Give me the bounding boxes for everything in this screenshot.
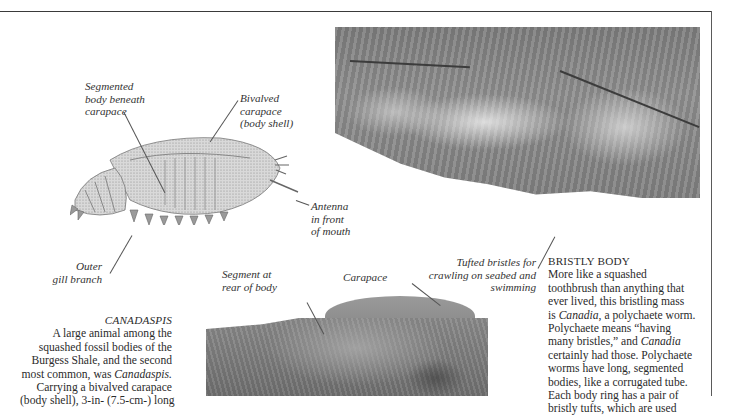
caption-line: many bristles,” and Canadia	[548, 335, 710, 348]
caption-line: A large animal among the	[20, 327, 172, 340]
canadaspis-illustration	[70, 130, 300, 225]
caption-line: certainly had those. Polychaete	[548, 349, 710, 362]
caption-line: bodies, like a corrugated tube.	[548, 376, 710, 389]
label-segment-rear: Segment at rear of body	[222, 268, 277, 293]
bristly-body-caption: BRISTLY BODY More like a squashed toothb…	[548, 255, 710, 416]
canadaspis-caption: CANADASPIS A large animal among the squa…	[20, 314, 172, 408]
caption-line: More like a squashed	[548, 268, 710, 281]
caption-line: (body shell), 3-in- (7.5-cm-) long	[20, 394, 172, 407]
canadia-fossil-photo	[335, 27, 700, 198]
bristly-body-heading: BRISTLY BODY	[548, 255, 710, 268]
top-rule	[0, 11, 712, 12]
caption-line: worms have long, segmented	[548, 362, 710, 375]
leader-outer-gill	[110, 235, 133, 274]
label-outer-gill: Outer gill branch	[50, 260, 102, 285]
label-carapace: Carapace	[343, 271, 387, 284]
label-segmented-body: Segmented body beneath carapace	[85, 80, 145, 118]
caption-line: ever lived, this bristling mass	[548, 295, 710, 308]
caption-line: Carrying a bivalved carapace	[20, 381, 172, 394]
caption-line: bristly tufts, which are used	[548, 402, 710, 415]
canadaspis-fossil-photo	[206, 318, 488, 396]
caption-line: Each body ring has a pair of	[548, 389, 710, 402]
caption-line: most common, was Canadaspis.	[20, 368, 172, 381]
caption-line: squashed fossil bodies of the	[20, 341, 172, 354]
canadaspis-heading: CANADASPIS	[20, 314, 172, 327]
caption-line: Burgess Shale, and the second	[20, 354, 172, 367]
label-antenna: Antenna in front of mouth	[311, 200, 350, 238]
label-bivalved-carapace: Bivalved carapace (body shell)	[240, 92, 293, 130]
right-rule	[711, 11, 712, 396]
label-tufted-bristles: Tufted bristles for crawling on seabed a…	[410, 256, 536, 294]
caption-line: toothbrush than anything that	[548, 282, 710, 295]
caption-line: Polychaete means “having	[548, 322, 710, 335]
caption-line: is Canadia, a polychaete worm.	[548, 309, 710, 322]
